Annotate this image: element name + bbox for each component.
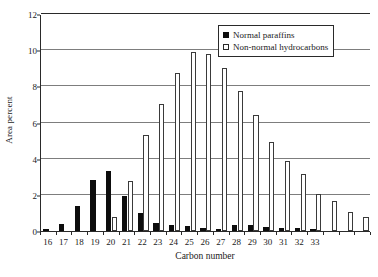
x-axis-tick-mark <box>244 232 245 235</box>
bar-non-normal-hydrocarbons <box>222 68 227 231</box>
bar-normal-paraffins <box>153 223 158 231</box>
bar-normal-paraffins <box>248 225 253 231</box>
x-axis-tick-mark <box>229 232 230 235</box>
bar-group <box>198 15 214 231</box>
bar-non-normal-hydrocarbons <box>301 174 306 231</box>
y-axis-title: Area percent <box>0 0 18 240</box>
bar-group <box>72 15 88 231</box>
bar-group <box>340 15 356 231</box>
bar-group <box>167 15 183 231</box>
bar-non-normal-hydrocarbons <box>175 73 180 231</box>
bar-non-normal-hydrocarbons <box>112 217 117 231</box>
bar-non-normal-hydrocarbons <box>238 91 243 231</box>
x-axis-tick-label: 31 <box>279 236 288 248</box>
bar-group <box>104 15 120 231</box>
bar-group <box>120 15 136 231</box>
bar-non-normal-hydrocarbons <box>363 217 368 231</box>
x-axis-tick-label: 23 <box>153 236 162 248</box>
x-axis-tick-label: 17 <box>59 236 68 248</box>
x-axis-tick-mark <box>323 232 324 235</box>
bar-non-normal-hydrocarbons <box>285 161 290 231</box>
bar-non-normal-hydrocarbons <box>253 115 258 231</box>
gridline <box>41 13 370 14</box>
bar-non-normal-hydrocarbons <box>191 52 196 231</box>
x-axis-tick-mark <box>276 232 277 235</box>
bar-normal-paraffins <box>263 227 268 231</box>
x-axis-tick-mark <box>339 232 340 235</box>
bar-non-normal-hydrocarbons <box>128 181 133 231</box>
x-axis-tick-label: 26 <box>201 236 210 248</box>
bar-normal-paraffins <box>169 225 174 231</box>
y-axis-tick-labels: 024681012 <box>18 15 40 232</box>
bar-group <box>88 15 104 231</box>
x-axis-tick-mark <box>197 232 198 235</box>
bar-group <box>135 15 151 231</box>
x-axis-tick-label: 21 <box>122 236 131 248</box>
x-axis-tick-mark <box>40 232 41 235</box>
bar-group <box>57 15 73 231</box>
x-axis-tick-mark <box>181 232 182 235</box>
bar-chart: Area percent 024681012 16171819202122232… <box>0 0 378 277</box>
legend-label-non-normal-hydrocarbons: Non-normal hydrocarbons <box>233 43 328 52</box>
x-axis-title: Carbon number <box>40 251 370 261</box>
x-axis-tick-label: 19 <box>91 236 100 248</box>
x-axis-tick-label: 18 <box>75 236 84 248</box>
bar-normal-paraffins <box>279 228 284 231</box>
chart-legend: Normal paraffins Non-normal hydrocarbons <box>218 25 334 57</box>
bar-group <box>151 15 167 231</box>
x-axis-tick-mark <box>71 232 72 235</box>
legend-entry-normal-paraffins: Normal paraffins <box>223 29 328 41</box>
bar-normal-paraffins <box>200 228 205 231</box>
bar-group <box>355 15 371 231</box>
bar-normal-paraffins <box>75 206 80 231</box>
x-axis-tick-label: 24 <box>169 236 178 248</box>
x-axis-tick-label: 32 <box>295 236 304 248</box>
bar-normal-paraffins <box>43 229 48 231</box>
bar-normal-paraffins <box>185 226 190 231</box>
legend-entry-non-normal-hydrocarbons: Non-normal hydrocarbons <box>223 41 328 53</box>
x-axis-tick-label: 16 <box>43 236 52 248</box>
x-axis-tick-mark <box>119 232 120 235</box>
bar-non-normal-hydrocarbons <box>348 212 353 231</box>
x-axis-tick-label: 33 <box>311 236 320 248</box>
x-axis-tick-mark <box>370 232 371 235</box>
bar-normal-paraffins <box>90 180 95 231</box>
bar-normal-paraffins <box>138 213 143 231</box>
bar-non-normal-hydrocarbons <box>269 142 274 232</box>
bar-normal-paraffins <box>59 224 64 231</box>
bar-non-normal-hydrocarbons <box>143 135 148 231</box>
x-axis-tick-label: 30 <box>263 236 272 248</box>
x-axis-tick-mark <box>354 232 355 235</box>
filled-square-icon <box>223 32 229 38</box>
x-axis-tick-mark <box>87 232 88 235</box>
x-axis-tick-mark <box>307 232 308 235</box>
bar-normal-paraffins <box>122 196 127 231</box>
bar-group <box>41 15 57 231</box>
bar-normal-paraffins <box>310 229 315 231</box>
bar-normal-paraffins <box>216 229 221 231</box>
bar-normal-paraffins <box>232 225 237 231</box>
open-square-icon <box>223 44 229 50</box>
bar-normal-paraffins <box>295 228 300 231</box>
y-axis-title-label: Area percent <box>4 96 14 143</box>
bar-non-normal-hydrocarbons <box>206 54 211 231</box>
x-axis-tick-mark <box>56 232 57 235</box>
x-axis-tick-mark <box>166 232 167 235</box>
y-axis-tick-label: 12 <box>28 11 37 20</box>
bar-group <box>182 15 198 231</box>
bar-non-normal-hydrocarbons <box>159 104 164 231</box>
bar-non-normal-hydrocarbons <box>332 201 337 231</box>
x-axis-tick-label: 25 <box>185 236 194 248</box>
x-axis-tick-mark <box>134 232 135 235</box>
x-axis-tick-label: 20 <box>106 236 115 248</box>
x-axis-tick-label: 27 <box>216 236 225 248</box>
y-axis-tick-label: 10 <box>28 47 37 56</box>
x-axis-tick-mark <box>260 232 261 235</box>
x-axis-tick-labels: 161718192021222324252627282930313233 <box>40 236 370 250</box>
x-axis-tick-mark <box>291 232 292 235</box>
x-axis-tick-mark <box>213 232 214 235</box>
bar-normal-paraffins <box>106 171 111 231</box>
x-axis-tick-label: 29 <box>248 236 257 248</box>
legend-label-normal-paraffins: Normal paraffins <box>233 31 295 40</box>
x-axis-tick-label: 22 <box>138 236 147 248</box>
